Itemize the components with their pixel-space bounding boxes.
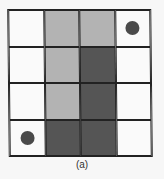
grid-cell-r3-c1 — [45, 120, 81, 157]
grid-cell-r2-c3 — [116, 83, 152, 120]
grid-cell-r1-c1 — [44, 47, 80, 84]
grid-cell-r1-c2 — [80, 47, 116, 84]
grid-cell-r2-c0 — [9, 83, 45, 120]
grid-cell-r1-c3 — [115, 47, 151, 84]
grid-cell-r3-c2 — [80, 120, 116, 157]
grid-cell-r1-c0 — [9, 47, 45, 84]
grid-cell-r0-c0 — [8, 10, 44, 47]
grid-cell-r3-c0 — [9, 120, 45, 157]
grid-diagram — [7, 9, 153, 157]
grid-cell-r2-c1 — [45, 83, 81, 120]
circle-marker-icon — [20, 131, 34, 145]
grid-cell-r0-c3 — [115, 10, 151, 47]
circle-marker-icon — [126, 21, 140, 35]
figure-caption: (a) — [0, 159, 164, 170]
grid-cell-r3-c3 — [116, 120, 152, 157]
grid-cell-r0-c1 — [44, 10, 80, 47]
grid-cell-r2-c2 — [80, 83, 116, 120]
grid-cell-r0-c2 — [79, 10, 115, 47]
